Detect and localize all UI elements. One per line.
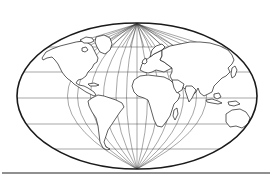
india [185, 86, 196, 102]
caribbean [88, 83, 99, 86]
japan [231, 66, 237, 78]
landmasses [42, 35, 250, 150]
new-guinea [228, 101, 240, 106]
indonesia [206, 99, 222, 104]
image-subject: World map line drawing [0, 0, 10, 1]
world-map [0, 0, 270, 190]
north-america [42, 41, 98, 96]
madagascar [173, 108, 178, 120]
greenland [95, 35, 112, 54]
british-isles [142, 58, 147, 64]
graticule [0, 23, 270, 169]
